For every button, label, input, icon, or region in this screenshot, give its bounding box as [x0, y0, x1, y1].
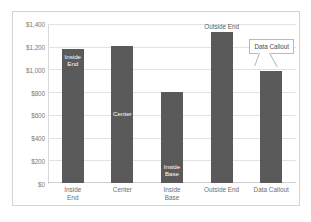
bar-slot-center: Center	[98, 24, 148, 183]
y-tick-1200: $1,200	[11, 43, 45, 50]
bar-outside-end[interactable]	[211, 32, 233, 183]
y-tick-800: $800	[11, 89, 45, 96]
x-label-outside-end: Outside End	[197, 186, 247, 194]
y-tick-0: $0	[11, 181, 45, 188]
y-tick-200: $200	[11, 158, 45, 165]
plot-area: Inside End Center Inside Base Outside En…	[48, 24, 296, 183]
y-axis-tick-labels: $1,400 $1,200 $1,000 $800 $600 $400 $200…	[13, 24, 45, 184]
y-tick-1400: $1,400	[11, 21, 45, 28]
x-label-data-callout: Data Callout	[246, 186, 296, 194]
data-label-outside-end: Outside End	[194, 23, 250, 31]
y-tick-1000: $1,000	[11, 66, 45, 73]
data-label-callout-text: Data Callout	[254, 43, 289, 50]
data-label-callout[interactable]: Data Callout	[249, 39, 294, 54]
y-tick-400: $400	[11, 135, 45, 142]
x-label-inside-end: Inside End	[48, 186, 98, 203]
bar-inside-base[interactable]: Inside Base	[161, 92, 183, 183]
bar-center[interactable]: Center	[111, 46, 133, 183]
data-label-inside-base: Inside Base	[157, 163, 187, 178]
x-label-inside-base: Inside Base	[147, 186, 197, 203]
bar-data-callout[interactable]	[260, 71, 282, 183]
bar-slot-inside-base: Inside Base	[147, 24, 197, 183]
data-label-inside-end: Inside End	[58, 53, 88, 68]
data-label-center: Center	[107, 111, 137, 119]
chart-container[interactable]: $1,400 $1,200 $1,000 $800 $600 $400 $200…	[12, 11, 300, 206]
x-label-center: Center	[98, 186, 148, 194]
y-tick-600: $600	[11, 112, 45, 119]
bar-slot-data-callout: Data Callout	[246, 24, 296, 183]
bar-slot-inside-end: Inside End	[48, 24, 98, 183]
bar-slot-outside-end: Outside End	[197, 24, 247, 183]
x-axis-category-labels: Inside End Center Inside Base Outside En…	[48, 186, 296, 208]
bar-inside-end[interactable]: Inside End	[62, 49, 84, 184]
